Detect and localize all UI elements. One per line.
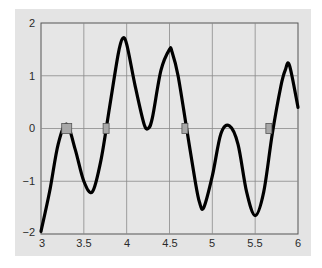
zero-crossing-marker — [266, 124, 272, 134]
y-tick-label: −2 — [22, 226, 35, 238]
y-tick-label: 0 — [29, 122, 35, 134]
x-tick-label: 4 — [124, 237, 130, 249]
zero-crossing-marker — [62, 124, 72, 134]
y-tick-label: 2 — [29, 17, 35, 29]
x-axis-labels: 3 3.5 4 4.5 5 5.5 6 — [39, 237, 301, 249]
y-tick-label: −1 — [22, 175, 35, 187]
x-tick-label: 5 — [209, 237, 215, 249]
zero-crossing-marker — [103, 124, 109, 134]
x-tick-label: 5.5 — [247, 237, 262, 249]
x-tick-label: 4.5 — [162, 237, 177, 249]
line-chart: 2 1 0 −1 −2 3 3.5 4 4.5 5 5.5 6 — [0, 0, 322, 268]
x-tick-label: 3.5 — [76, 237, 91, 249]
zero-crossing-marker — [182, 124, 188, 134]
x-tick-label: 3 — [39, 237, 45, 249]
y-axis-labels: 2 1 0 −1 −2 — [22, 17, 35, 238]
y-tick-label: 1 — [29, 70, 35, 82]
x-tick-label: 6 — [295, 237, 301, 249]
